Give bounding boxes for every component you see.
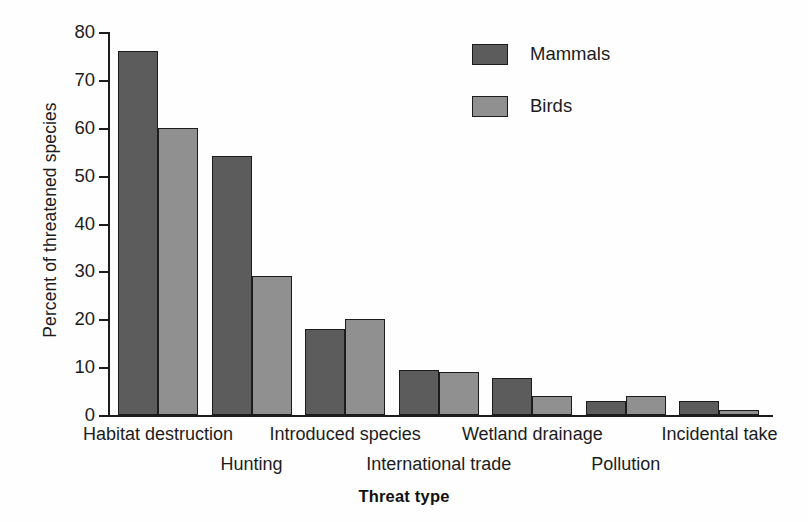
x-axis-line (108, 415, 773, 417)
y-tick-mark (99, 80, 108, 82)
y-tick-label: 80 (74, 23, 95, 42)
x-category-label: Wetland drainage (462, 425, 603, 443)
y-tick-label: 70 (74, 71, 95, 90)
bar-mammals-5 (586, 401, 626, 415)
bar-mammals-1 (212, 156, 252, 415)
y-tick-mark (99, 415, 108, 417)
y-tick-label: 20 (74, 310, 95, 329)
y-tick-mark (99, 128, 108, 130)
y-tick-mark (99, 176, 108, 178)
legend-item-birds: Birds (472, 91, 610, 121)
y-tick-mark (99, 319, 108, 321)
x-category-label: Introduced species (270, 425, 421, 443)
legend-label: Birds (530, 97, 572, 116)
y-axis-line (108, 32, 110, 417)
y-tick-mark (99, 367, 108, 369)
legend-item-mammals: Mammals (472, 39, 610, 69)
bar-mammals-4 (492, 378, 532, 415)
bar-birds-1 (252, 276, 292, 415)
y-tick-mark (99, 224, 108, 226)
x-category-label: Pollution (591, 455, 660, 473)
x-category-label: International trade (366, 455, 511, 473)
y-axis-title: Percent of threatened species (30, 10, 70, 430)
bar-birds-5 (626, 396, 666, 415)
x-category-label: Hunting (221, 455, 283, 473)
bar-mammals-0 (118, 51, 158, 415)
y-tick-label: 10 (74, 358, 95, 377)
bar-birds-6 (719, 410, 759, 415)
plot-area: 01020304050607080 (108, 32, 773, 417)
y-tick-label: 30 (74, 262, 95, 281)
legend-label: Mammals (530, 45, 610, 64)
x-category-label: Habitat destruction (83, 425, 233, 443)
y-tick-label: 0 (85, 406, 95, 425)
bar-birds-2 (345, 319, 385, 415)
chart-legend: MammalsBirds (472, 39, 610, 143)
x-category-label: Incidental take (661, 425, 777, 443)
y-tick-mark (99, 32, 108, 34)
y-tick-mark (99, 271, 108, 273)
bar-birds-0 (158, 128, 198, 415)
bar-birds-3 (439, 372, 479, 415)
bar-mammals-6 (679, 401, 719, 415)
bar-chart-figure: Percent of threatened species 0102030405… (0, 0, 808, 522)
y-tick-label: 50 (74, 166, 95, 185)
y-tick-label: 60 (74, 119, 95, 138)
bar-mammals-3 (399, 370, 439, 415)
legend-swatch-mammals (472, 44, 508, 65)
x-axis-title: Threat type (0, 487, 808, 506)
y-tick-label: 40 (74, 214, 95, 233)
bar-mammals-2 (305, 329, 345, 415)
bar-birds-4 (532, 396, 572, 415)
legend-swatch-birds (472, 96, 508, 117)
